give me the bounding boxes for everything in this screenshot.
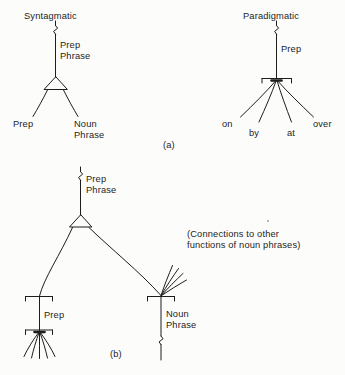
label-syntagmatic-edge-line1: Prep: [60, 40, 80, 51]
label-panelb-prep: Prep: [44, 310, 64, 321]
panelb-left-edge: [40, 228, 73, 297]
syntagmatic-child-edges: [33, 90, 78, 117]
scan-speck: [267, 220, 268, 221]
label-syntagmatic: Syntagmatic: [24, 11, 77, 22]
syntagmatic-root-edge: [54, 21, 58, 77]
caption-b: (b): [110, 349, 122, 360]
panelb-prep-fan-edges: [24, 332, 55, 359]
caption-a: (a): [163, 140, 175, 151]
label-paradigmatic-child-by: by: [249, 128, 259, 139]
panelb-triangle-node: [70, 215, 92, 227]
label-syntagmatic-child-prep: Prep: [13, 119, 33, 130]
label-syntagmatic-child-noun-line2: Phrase: [74, 130, 104, 141]
panelb-right-edge: [89, 228, 161, 296]
label-syntagmatic-child-noun-line1: Noun: [74, 119, 97, 130]
label-panelb-noun-line2: Phrase: [166, 320, 196, 331]
label-paradigmatic-edge-prep: Prep: [281, 44, 301, 55]
label-paradigmatic: Paradigmatic: [243, 11, 299, 22]
paradigmatic-root-edge: [275, 21, 279, 78]
label-paradigmatic-child-at: at: [287, 128, 295, 139]
annotation-connections-line1: (Connections to other: [187, 229, 279, 240]
panelb-noun-fan-edges: [161, 266, 187, 296]
panelb-root-edge: [79, 167, 83, 215]
label-paradigmatic-child-on: on: [222, 119, 233, 130]
label-panelb-noun-line1: Noun: [166, 309, 189, 320]
panelb-noun-stem: [159, 297, 163, 361]
label-syntagmatic-edge-line2: Phrase: [60, 51, 90, 62]
label-paradigmatic-child-over: over: [313, 119, 332, 130]
paradigmatic-child-edges: [241, 81, 314, 123]
label-panelb-edge-line2: Phrase: [86, 185, 116, 196]
label-panelb-edge-line1: Prep: [86, 174, 106, 185]
syntagmatic-triangle-node: [44, 77, 67, 90]
annotation-connections-line2: functions of noun phrases): [187, 240, 300, 251]
figure-canvas: Syntagmatic Prep Phrase Prep Noun Phrase…: [0, 0, 345, 375]
